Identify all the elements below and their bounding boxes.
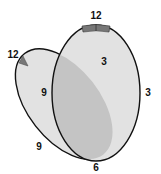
- ellipses-diagram: 12 3 6 9 12 3 9: [0, 0, 161, 174]
- back-label-12: 12: [7, 49, 19, 60]
- front-twelve-marker: [82, 24, 110, 32]
- diagram: 12 3 6 9 12 3 9: [0, 0, 161, 174]
- front-label-3: 3: [145, 87, 151, 98]
- front-label-6: 6: [93, 162, 99, 173]
- front-label-12: 12: [90, 10, 102, 21]
- back-label-3: 3: [101, 56, 107, 67]
- front-label-9: 9: [41, 87, 47, 98]
- back-label-9: 9: [36, 141, 42, 152]
